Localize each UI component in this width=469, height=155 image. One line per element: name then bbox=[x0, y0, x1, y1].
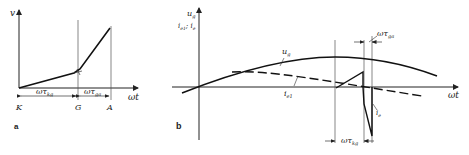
panel-a-velocity-curve bbox=[19, 28, 110, 88]
panel-b-ug-label: ug bbox=[282, 47, 290, 58]
panel-a-x-label: ωt bbox=[128, 92, 139, 102]
panel-b-interval-kg: ωτkg bbox=[341, 136, 358, 147]
panel-a-point-k: K bbox=[15, 103, 23, 112]
panel-b-label: b bbox=[176, 121, 182, 131]
panel-a-point-a: A bbox=[106, 103, 113, 112]
panel-b-y-label-secondary: ie1; ie bbox=[178, 22, 196, 31]
panel-b-ie-label: ie bbox=[376, 109, 381, 118]
panel-b-y-label-main: ug bbox=[187, 9, 195, 20]
panel-b-ug-curve bbox=[182, 57, 437, 93]
panel-a: v ωt ωτkg ωτga K G A a bbox=[10, 8, 139, 131]
panel-b-ie1-leader bbox=[294, 76, 298, 86]
panel-b: ug ie1; ie ug ie1 ie ωt ωτga ωτkg b bbox=[172, 8, 459, 147]
panel-a-y-label: v bbox=[10, 8, 15, 18]
panel-b-ie-pulse bbox=[336, 72, 372, 136]
panel-b-dim-ga-leader bbox=[369, 36, 377, 42]
panel-a-point-g: G bbox=[75, 103, 82, 112]
panel-b-interval-ga: ωτga bbox=[377, 29, 394, 40]
diagram-canvas: v ωt ωτkg ωτga K G A a bbox=[0, 0, 469, 155]
panel-a-label: a bbox=[14, 122, 19, 131]
panel-b-ie1-label: ie1 bbox=[284, 89, 293, 99]
panel-b-ie1-curve bbox=[232, 72, 422, 96]
panel-b-x-label: ωt bbox=[448, 90, 459, 100]
